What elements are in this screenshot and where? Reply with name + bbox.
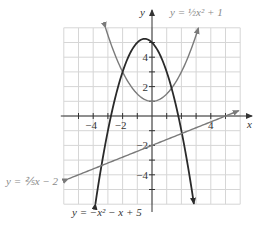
y-tick-label: −4	[136, 169, 148, 181]
y-tick-label: 2	[143, 81, 149, 93]
upper-parabola-label: y = ½x² + 1	[170, 6, 223, 18]
down-parabola-label: y = −x² − x + 5	[72, 206, 142, 218]
y-axis-label: y	[140, 6, 145, 18]
line-label: y = ⅖x − 2	[6, 175, 58, 188]
x-tick-label: −4	[85, 119, 97, 131]
x-axis-label: x	[247, 118, 252, 130]
y-tick-label: 4	[143, 51, 149, 63]
x-tick-label: −2	[115, 119, 127, 131]
graph: −4−2442−2−4	[0, 0, 260, 226]
